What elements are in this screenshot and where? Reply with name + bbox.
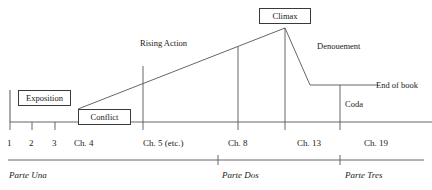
story-arc-figure: Exposition Conflict Climax Rising Action… [0,0,432,190]
chapter-label-ch13: Ch. 13 [297,138,321,148]
chapter-label-2: 2 [29,138,34,148]
label-denouement: Denouement [317,41,360,51]
label-coda: Coda [345,99,363,109]
chapter-label-ch5: Ch. 5 (etc.) [143,138,184,148]
chapter-label-ch8: Ch. 8 [228,138,248,148]
label-end-of-book: End of book [376,80,418,90]
box-exposition[interactable]: Exposition [18,90,71,106]
chapter-label-3: 3 [52,138,57,148]
part-label-una: Parte Una [9,170,47,180]
denouement-line [285,28,310,85]
part-label-dos: Parte Dos [222,170,259,180]
label-rising-action: Rising Action [140,38,187,48]
chapter-label-ch19: Ch. 19 [364,138,388,148]
part-label-tres: Parte Tres [345,170,382,180]
box-climax-label: Climax [272,11,297,21]
box-exposition-label: Exposition [26,93,63,103]
box-conflict[interactable]: Conflict [78,109,131,125]
box-conflict-label: Conflict [91,112,119,122]
chapter-label-1: 1 [7,138,12,148]
chapter-label-ch4: Ch. 4 [74,138,94,148]
box-climax[interactable]: Climax [259,8,311,24]
